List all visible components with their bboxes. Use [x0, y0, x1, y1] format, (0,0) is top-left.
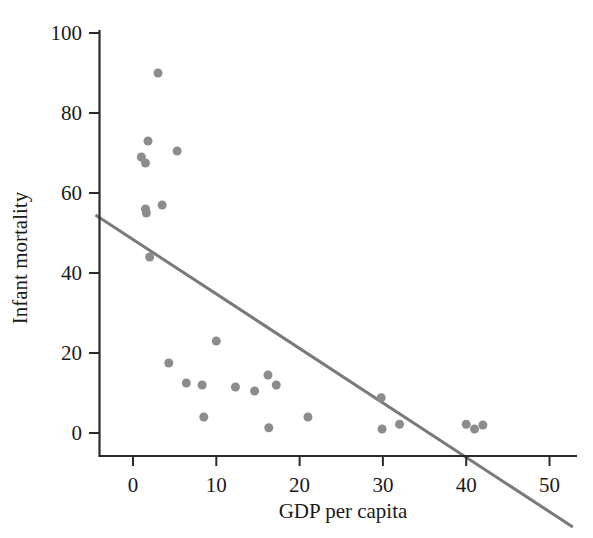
data-point — [478, 421, 487, 430]
data-point — [395, 420, 404, 429]
data-point — [272, 381, 281, 390]
x-tick-label: 50 — [539, 473, 560, 497]
regression-line — [96, 215, 573, 527]
data-point — [212, 337, 221, 346]
data-point — [250, 387, 259, 396]
x-tick-label: 40 — [456, 473, 477, 497]
y-axis-title: Infant mortality — [8, 191, 32, 324]
y-tick-label: 100 — [51, 21, 83, 45]
x-tick-label: 20 — [289, 473, 310, 497]
data-point — [470, 425, 479, 434]
regression-line-group — [96, 215, 573, 527]
data-point — [264, 423, 273, 432]
data-point — [158, 201, 167, 210]
data-point — [145, 253, 154, 262]
data-point — [199, 413, 208, 422]
x-tick-label: 10 — [206, 473, 227, 497]
y-tick-label: 60 — [61, 181, 82, 205]
data-point — [378, 425, 387, 434]
data-point — [462, 420, 471, 429]
data-points-group — [137, 69, 488, 434]
data-point — [182, 379, 191, 388]
x-axis-title: GDP per capita — [279, 499, 408, 523]
y-tick-label: 0 — [72, 421, 83, 445]
data-point — [143, 137, 152, 146]
data-point — [164, 359, 173, 368]
y-tick-label: 20 — [61, 341, 82, 365]
x-tick-label: 30 — [372, 473, 393, 497]
x-tick-label: 0 — [128, 473, 139, 497]
data-point — [142, 209, 151, 218]
y-tick-label: 40 — [61, 261, 82, 285]
plot-canvas: 01020304050 020406080100 GDP per capita … — [0, 0, 593, 538]
y-axis-ticks: 020406080100 — [51, 21, 100, 445]
data-point — [303, 413, 312, 422]
data-point — [231, 383, 240, 392]
data-point — [198, 381, 207, 390]
scatter-plot-figure: 01020304050 020406080100 GDP per capita … — [0, 0, 593, 538]
data-point — [263, 371, 272, 380]
data-point — [173, 147, 182, 156]
data-point — [141, 159, 150, 168]
data-point — [377, 393, 386, 402]
data-point — [153, 69, 162, 78]
y-tick-label: 80 — [61, 101, 82, 125]
